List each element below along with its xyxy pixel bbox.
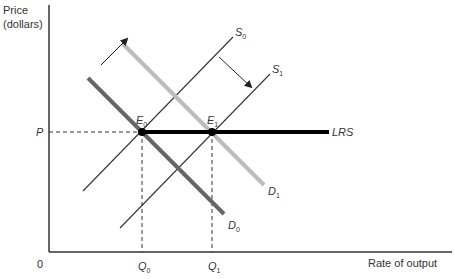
origin-label: 0	[37, 258, 43, 270]
s0-label: S0	[235, 26, 246, 40]
e0-label: E0	[136, 114, 147, 128]
demand-shift-arrow-icon	[101, 39, 127, 65]
s1-label: S1	[272, 63, 283, 77]
supply-demand-diagram: Price (dollars) Rate of output 0 P Q0 Q1…	[0, 0, 455, 279]
x-axis-label: Rate of output	[368, 257, 437, 269]
y-axis-label-line1: Price	[3, 4, 28, 16]
supply-shift-arrow-icon	[219, 57, 251, 87]
supply-curve-s1	[120, 74, 270, 228]
price-label: P	[36, 126, 44, 138]
d1-label: D1	[268, 185, 280, 199]
q0-label: Q0	[138, 260, 151, 274]
equilibrium-point-e1	[208, 128, 216, 136]
lrs-label: LRS	[332, 126, 354, 138]
y-axis-label-line2: (dollars)	[3, 18, 43, 30]
q1-label: Q1	[208, 260, 221, 274]
d0-label: D0	[228, 219, 240, 233]
equilibrium-point-e0	[138, 128, 146, 136]
e1-label: E1	[207, 114, 218, 128]
demand-curve-d0	[88, 78, 224, 214]
